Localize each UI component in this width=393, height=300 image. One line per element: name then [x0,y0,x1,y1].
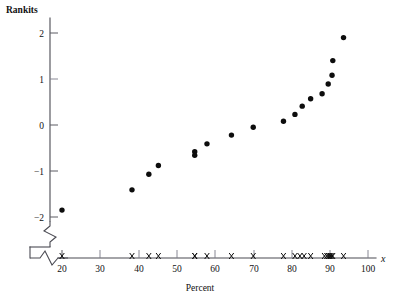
y-tick-label-2: 2 [39,29,44,39]
y-tick-label-1: 1 [39,75,44,85]
scatter-points-group [59,35,346,213]
data-point [156,163,161,168]
rankit-plot-figure: 2 1 0 −1 −2 20 30 40 50 60 70 80 90 [0,0,393,300]
data-point [229,132,234,137]
y-axis-break-icon [44,221,56,247]
x-tick-label-90: 90 [325,264,335,274]
x-axis-title: Percent [186,283,215,293]
y-axis-tick-labels: 2 1 0 −1 −2 [34,29,44,223]
data-point [281,119,286,124]
data-point [319,91,324,96]
data-point [300,103,305,108]
data-point [341,35,346,40]
data-point [59,207,64,212]
data-point [129,187,134,192]
x-tick-label-40: 40 [134,264,144,274]
x-axis-ticks [62,250,368,258]
y-tick-label-0: 0 [39,121,44,131]
chart-canvas: 2 1 0 −1 −2 20 30 40 50 60 70 80 90 [0,0,393,300]
x-tick-label-20: 20 [57,264,67,274]
x-tick-label-70: 70 [249,264,259,274]
data-point [308,96,313,101]
y-axis-ticks [50,33,58,217]
data-point [326,81,331,86]
data-point [146,172,151,177]
x-tick-label-60: 60 [210,264,220,274]
data-point [192,153,197,158]
x-tick-label-50: 50 [172,264,182,274]
x-tick-label-30: 30 [95,264,105,274]
data-point [330,58,335,63]
data-point [329,73,334,78]
y-tick-label-neg1: −1 [34,167,44,177]
x-tick-label-80: 80 [287,264,297,274]
y-axis-title: Rankits [6,5,38,15]
x-tick-label-100: 100 [361,264,376,274]
data-point [292,112,297,117]
data-point [251,125,256,130]
x-axis-tick-labels: 20 30 40 50 60 70 80 90 100 [57,264,375,274]
x-axis-variable-label: x [380,253,386,264]
data-point [204,141,209,146]
y-tick-label-neg2: −2 [34,213,44,223]
